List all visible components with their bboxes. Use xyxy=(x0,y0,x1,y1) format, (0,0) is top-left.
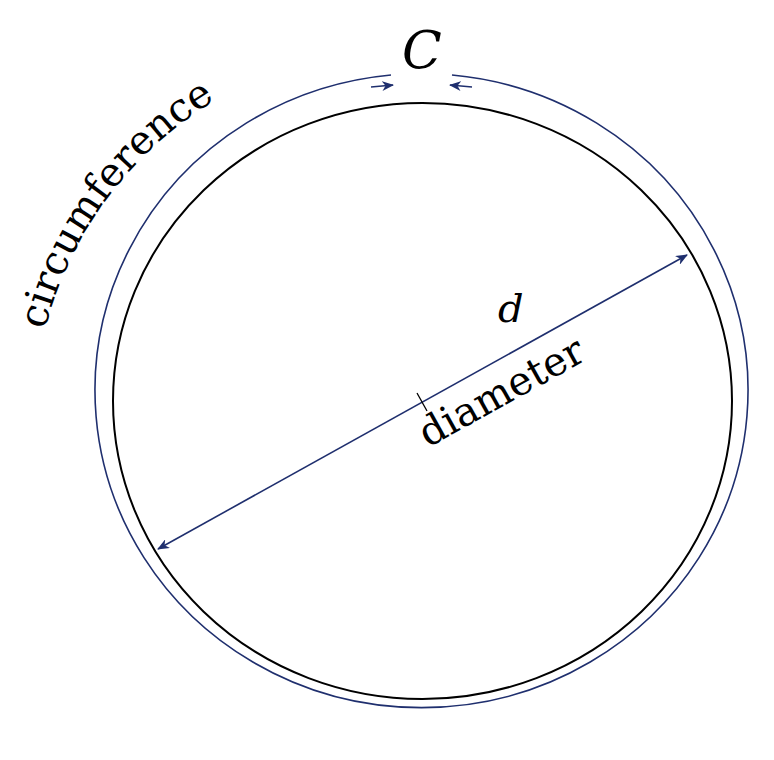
circumference-arc-left xyxy=(95,75,748,708)
circumference-arrow-left-icon xyxy=(371,85,393,87)
circumference-arrow-right-icon xyxy=(450,85,472,87)
diameter-label: diameter xyxy=(410,326,593,455)
main-circle xyxy=(113,103,732,699)
circumference-symbol: C xyxy=(402,20,442,80)
circle-diagram: circumference C d diameter xyxy=(0,0,774,760)
diameter-symbol: d xyxy=(498,285,524,331)
diagram-canvas: circumference C d diameter xyxy=(0,0,774,760)
circumference-label: circumference xyxy=(9,69,220,333)
